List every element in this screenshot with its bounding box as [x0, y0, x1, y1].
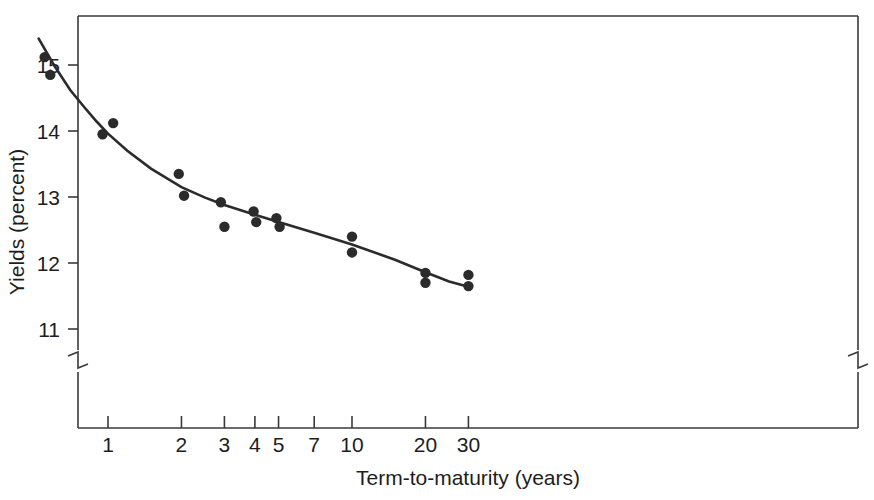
x-axis-ticks: [108, 416, 468, 428]
data-point: [45, 70, 55, 80]
fitted-yield-curve: [39, 39, 469, 287]
data-point: [39, 52, 49, 62]
yield-curve-chart: 15 14 13 12 11 Yields (percent) 12345710…: [0, 0, 874, 500]
x-tick-label-30: 30: [457, 433, 480, 456]
x-tick-label-5: 5: [273, 433, 285, 456]
data-point: [347, 231, 357, 241]
data-point: [108, 118, 118, 128]
data-point: [248, 206, 258, 216]
x-axis-tick-labels: 123457102030: [102, 433, 480, 456]
data-point: [347, 247, 357, 257]
yield-data-points: [39, 52, 473, 291]
data-point: [420, 278, 430, 288]
y-axis-break-icon-right: [848, 352, 868, 368]
y-axis-title: Yields (percent): [5, 149, 28, 295]
y-axis-break-icon-left: [68, 352, 88, 368]
data-point: [174, 169, 184, 179]
x-tick-label-1: 1: [102, 433, 114, 456]
x-tick-label-2: 2: [176, 433, 188, 456]
data-point: [463, 270, 473, 280]
y-tick-label-14: 14: [37, 120, 61, 143]
y-tick-label-12: 12: [37, 252, 60, 275]
data-point: [179, 190, 189, 200]
x-tick-label-4: 4: [249, 433, 261, 456]
data-point: [420, 268, 430, 278]
axis-break-symbols: [68, 352, 868, 368]
y-axis-ticks: [68, 65, 78, 329]
chart-canvas: 15 14 13 12 11 Yields (percent) 12345710…: [0, 0, 874, 500]
plot-frame: [78, 16, 858, 428]
y-tick-label-11: 11: [38, 318, 60, 341]
x-tick-label-10: 10: [340, 433, 363, 456]
data-point: [274, 222, 284, 232]
data-point: [219, 222, 229, 232]
x-tick-label-20: 20: [414, 433, 437, 456]
x-tick-label-3: 3: [219, 433, 231, 456]
x-axis-title: Term-to-maturity (years): [356, 466, 580, 489]
x-tick-label-7: 7: [308, 433, 320, 456]
data-point: [463, 281, 473, 291]
y-tick-label-13: 13: [37, 186, 60, 209]
data-point: [97, 129, 107, 139]
data-point: [216, 197, 226, 207]
data-point: [251, 217, 261, 227]
y-axis-tick-labels: 15 14 13 12 11: [37, 54, 61, 341]
